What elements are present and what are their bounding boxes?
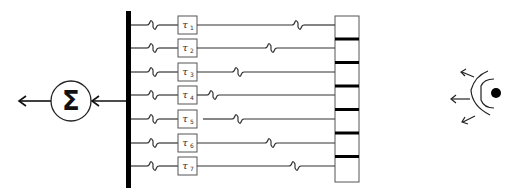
- wire-break-icon: [232, 68, 244, 77]
- delay-channel-5: τ5: [131, 110, 335, 128]
- summation-node: Σ: [51, 81, 91, 121]
- sensor-divider: [335, 61, 359, 64]
- sensor-divider: [335, 108, 359, 111]
- delay-channel-4: τ4: [131, 86, 335, 104]
- wire-break-icon: [265, 44, 277, 53]
- delay-channels: τ1τ2τ3τ4τ5τ6τ7: [131, 16, 335, 175]
- delay-subscript: 6: [190, 142, 194, 149]
- sensor-array: [335, 16, 359, 182]
- delay-box: τ1: [178, 16, 197, 34]
- delay-box: τ3: [178, 63, 197, 81]
- sensor-divider: [335, 38, 359, 41]
- wire-break-icon: [147, 162, 159, 171]
- delay-label: τ: [182, 160, 188, 171]
- delay-box: τ7: [178, 157, 197, 175]
- delay-box: τ5: [178, 110, 197, 128]
- delay-box: τ4: [178, 86, 197, 104]
- wire-break-icon: [207, 91, 219, 100]
- sigma-symbol: Σ: [62, 86, 80, 116]
- delay-box: τ6: [178, 134, 197, 152]
- delay-channel-2: τ2: [131, 39, 335, 57]
- delay-label: τ: [182, 89, 188, 100]
- delay-channel-6: τ6: [131, 134, 335, 152]
- wire-break-icon: [265, 139, 277, 148]
- delay-box: τ2: [178, 39, 197, 57]
- wire-break-icon: [147, 91, 159, 100]
- delay-label: τ: [182, 19, 188, 30]
- output-arrow: [19, 96, 51, 106]
- delay-subscript: 1: [190, 24, 194, 31]
- delay-label: τ: [182, 113, 188, 124]
- wire-break-icon: [147, 44, 159, 53]
- delay-subscript: 2: [190, 47, 194, 54]
- delay-subscript: 4: [190, 94, 194, 101]
- delay-channel-7: τ7: [131, 157, 335, 175]
- delay-label: τ: [182, 137, 188, 148]
- delay-channel-1: τ1: [131, 16, 335, 34]
- wire-break-icon: [147, 68, 159, 77]
- delay-label: τ: [182, 66, 188, 77]
- wire-break-icon: [147, 21, 159, 30]
- wire-break-icon: [147, 139, 159, 148]
- beamforming-diagram: Σ τ1τ2τ3τ4τ5τ6τ7: [0, 0, 516, 196]
- source-point-icon: [491, 88, 501, 98]
- delay-subscript: 5: [190, 118, 194, 125]
- input-arrow: [92, 96, 126, 106]
- delay-label: τ: [182, 42, 188, 53]
- wire-break-icon: [232, 115, 244, 124]
- delay-subscript: 7: [190, 165, 194, 172]
- delay-subscript: 3: [190, 71, 194, 78]
- sensor-divider: [335, 85, 359, 88]
- wire-break-icon: [147, 115, 159, 124]
- wave-arrow-up: [461, 69, 474, 77]
- summing-bus: [126, 11, 131, 188]
- sensor-divider: [335, 155, 359, 158]
- signal-source: [451, 69, 501, 124]
- sensor-divider: [335, 132, 359, 135]
- wire-break-icon: [292, 21, 304, 30]
- wave-arrow-left: [451, 95, 470, 103]
- wire-break-icon: [289, 162, 301, 171]
- wave-arrow-down: [462, 116, 475, 124]
- delay-channel-3: τ3: [131, 63, 335, 81]
